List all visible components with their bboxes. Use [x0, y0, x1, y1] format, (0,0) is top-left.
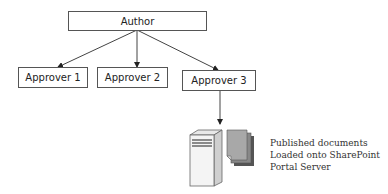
documents-icon	[227, 130, 254, 166]
approver-2-node: Approver 2	[97, 67, 168, 88]
caption-line: Loaded onto SharePoint	[270, 149, 380, 161]
approver-2-label: Approver 2	[105, 72, 160, 83]
approver-1-label: Approver 1	[25, 72, 80, 83]
approver-3-label: Approver 3	[191, 75, 246, 86]
author-node: Author	[68, 11, 207, 31]
caption-line: Published documents	[270, 137, 380, 149]
approver-3-node: Approver 3	[182, 70, 256, 91]
destination-caption: Published documents Loaded onto SharePoi…	[270, 137, 380, 173]
server-icon	[190, 130, 222, 186]
author-label: Author	[121, 16, 155, 27]
caption-line: Portal Server	[270, 161, 380, 173]
approver-1-node: Approver 1	[18, 67, 88, 88]
